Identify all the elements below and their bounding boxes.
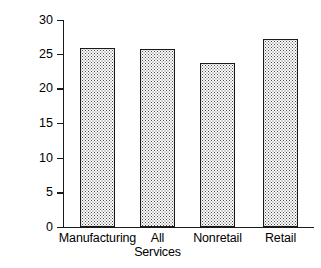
y-tick-0	[57, 227, 64, 228]
bar-nonretail	[200, 63, 235, 227]
y-tick-label-5: 5	[31, 186, 53, 198]
y-tick-label-15: 15	[31, 117, 53, 129]
y-tick-20	[57, 88, 64, 89]
bar-manufacturing	[80, 48, 115, 227]
x-tick-label-nonretail-line-1: Nonretail	[186, 231, 249, 245]
y-tick-30	[57, 20, 64, 21]
y-tick-15	[57, 123, 64, 124]
bar-all-services	[140, 49, 175, 227]
y-tick-label-20-wrap: 20	[28, 82, 53, 94]
y-tick-25	[57, 54, 64, 55]
x-axis-baseline	[63, 227, 314, 228]
bar-retail	[263, 39, 298, 227]
x-tick-label-all-services-line-2: Services	[127, 245, 188, 259]
y-tick-10	[57, 158, 64, 159]
y-tick-label-10-wrap: 10	[28, 152, 53, 164]
x-tick-label-all-services-line-1: All	[127, 231, 188, 245]
y-tick-label-0: 0	[31, 221, 53, 233]
x-tick-label-manufacturing-line-1: Manufacturing	[57, 231, 138, 245]
y-tick-label-30: 30	[31, 14, 53, 26]
x-tick-label-retail: Retail	[252, 231, 309, 245]
y-tick-label-15-wrap: 15	[28, 117, 53, 129]
y-tick-label-20: 20	[31, 82, 53, 94]
y-tick-label-0-wrap: 0	[28, 221, 53, 233]
x-tick-label-all-services: All Services	[127, 231, 188, 259]
x-tick-label-manufacturing: Manufacturing	[57, 231, 138, 245]
x-tick-label-retail-line-1: Retail	[252, 231, 309, 245]
bar-chart-figure: Value Added/Employee ($1000/year) 0 5 10…	[0, 0, 321, 268]
y-tick-label-5-wrap: 5	[28, 186, 53, 198]
y-tick-label-10: 10	[31, 152, 53, 164]
y-tick-5	[57, 192, 64, 193]
y-tick-label-25: 25	[31, 48, 53, 60]
x-tick-label-nonretail: Nonretail	[186, 231, 249, 245]
y-tick-label-25-wrap: 25	[28, 48, 53, 60]
y-tick-label-30-wrap: 30	[28, 14, 53, 26]
